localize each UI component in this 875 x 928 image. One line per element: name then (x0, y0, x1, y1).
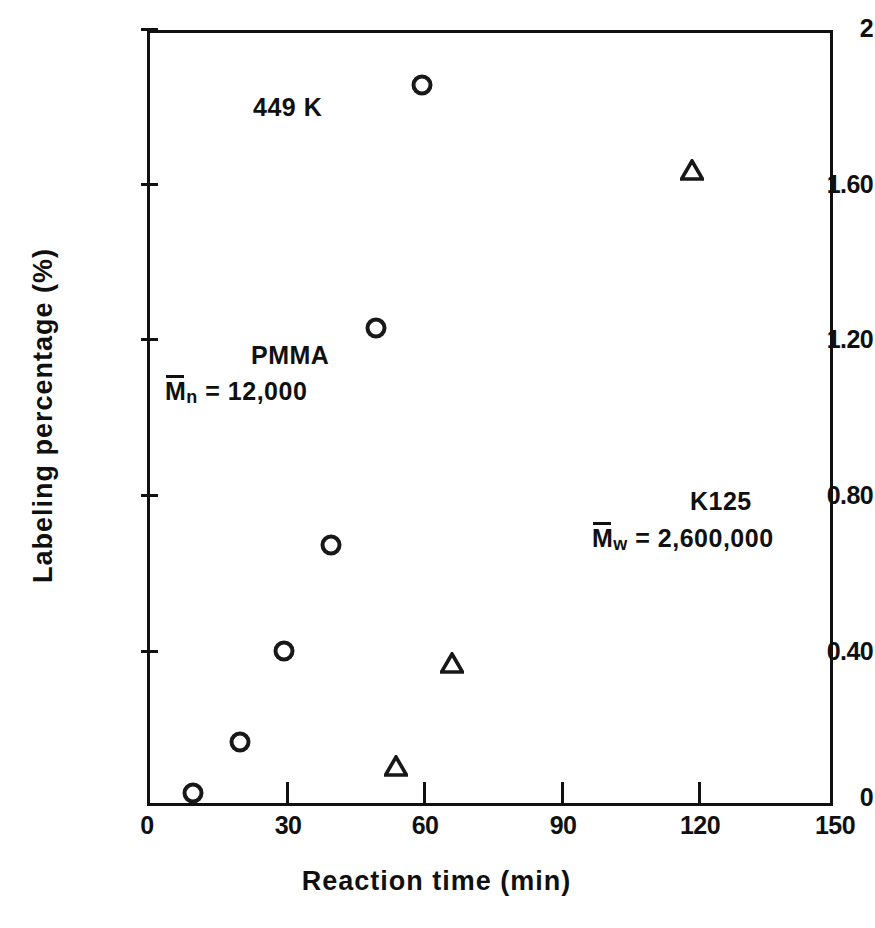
y-tick-mark-0.80 (141, 494, 158, 497)
x-tick-label-120: 120 (660, 811, 740, 840)
mn-subscript: n (186, 387, 198, 407)
annotation-mw: Mw = 2,600,000 (592, 524, 774, 555)
y-tick-mark-2 (141, 28, 158, 31)
mw-value: 2,600,000 (658, 524, 774, 552)
y-tick-label-0.40: 0.40 (745, 637, 873, 666)
x-tick-mark-120 (698, 782, 701, 806)
x-tick-label-60: 60 (385, 811, 465, 840)
data-point-circle-2 (230, 732, 251, 753)
y-tick-label-1.60: 1.60 (745, 170, 873, 199)
x-tick-label-0: 0 (107, 811, 187, 840)
mn-value: 12,000 (228, 377, 307, 405)
annotation-sample-left: PMMA (251, 341, 329, 370)
overline-bar (166, 375, 184, 378)
y-tick-label-0: 0 (745, 783, 873, 812)
x-tick-label-150: 150 (795, 811, 875, 840)
y-axis-title: Labeling percentage (%) (28, 156, 59, 676)
x-tick-mark-60 (423, 782, 426, 806)
data-point-circle-5 (366, 318, 387, 339)
annotation-mn: Mn = 12,000 (165, 377, 307, 408)
mn-symbol-overline: M (165, 377, 186, 406)
plot-frame (147, 30, 833, 806)
overline-bar (593, 522, 611, 525)
mn-relation: = (205, 377, 220, 405)
x-tick-mark-90 (561, 782, 564, 806)
x-tick-mark-30 (286, 782, 289, 806)
y-tick-label-2: 2 (745, 14, 873, 43)
mn-symbol: M (165, 377, 186, 405)
mw-subscript: w (613, 534, 628, 554)
y-tick-label-1.20: 1.20 (745, 325, 873, 354)
data-point-triangle-3 (680, 159, 704, 181)
annotation-sample-right: K125 (690, 487, 752, 516)
data-point-triangle-2 (440, 652, 464, 674)
data-point-circle-3 (274, 641, 295, 662)
x-axis-title: Reaction time (min) (0, 866, 873, 897)
y-tick-mark-0.40 (141, 650, 158, 653)
data-point-circle-6 (412, 75, 433, 96)
mw-symbol: M (592, 524, 613, 552)
x-tick-label-90: 90 (523, 811, 603, 840)
data-point-circle-4 (321, 535, 342, 556)
y-tick-label-0.80: 0.80 (745, 481, 873, 510)
annotation-temperature: 449 K (253, 93, 322, 122)
data-point-circle-1 (183, 783, 204, 804)
y-tick-mark-1.60 (141, 183, 158, 186)
mw-relation: = (635, 524, 650, 552)
x-tick-label-30: 30 (248, 811, 328, 840)
mw-symbol-overline: M (592, 524, 613, 553)
data-point-triangle-1 (384, 755, 408, 777)
y-tick-mark-1.20 (141, 338, 158, 341)
